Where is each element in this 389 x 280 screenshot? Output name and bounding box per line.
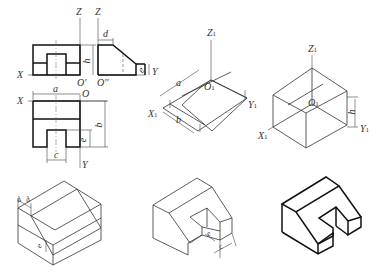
step1-y1-label: Y1: [248, 100, 257, 110]
side-y-axis-label: Y: [152, 67, 158, 77]
side-dim-d: d: [103, 29, 108, 39]
front-view: [28, 18, 96, 80]
top-x-axis-label: X: [17, 96, 23, 106]
step2-dim-h: h: [347, 110, 357, 115]
step1-dim-b: b: [176, 115, 181, 125]
top-dim-e: e: [78, 138, 88, 142]
diagram-canvas: Z X O' h Z d O'' Y e a O X b e c Y Z1 O1…: [0, 0, 389, 280]
isometric-step3: [18, 181, 101, 265]
top-view: [28, 91, 108, 168]
step1-z1-label: Z1: [207, 28, 216, 38]
front-dim-h: h: [82, 59, 92, 64]
step2-y1-label: Y1: [360, 124, 369, 134]
front-z-axis-label: Z: [76, 7, 82, 17]
isometric-final: [282, 177, 361, 254]
step1-dim-a: a: [176, 78, 181, 88]
step1-o1-label: O1: [204, 82, 215, 92]
step2-x1-label: X1: [258, 131, 268, 141]
top-dim-c: c: [54, 150, 58, 160]
top-y-axis-label: Y: [82, 160, 88, 170]
top-dim-b: b: [94, 123, 104, 128]
front-x-axis-label: X: [17, 70, 23, 80]
drawing-layer: [0, 0, 389, 280]
front-outline: [33, 45, 80, 75]
top-origin-label: O: [82, 89, 89, 99]
isometric-step4: [153, 178, 236, 258]
step2-o1-label: O1: [308, 98, 319, 108]
side-z-axis-label: Z: [95, 7, 101, 17]
side-origin-label: O'': [97, 78, 109, 88]
side-view: [98, 18, 149, 75]
front-origin-label: O': [77, 78, 86, 88]
step1-x1-label: X1: [148, 109, 158, 119]
step2-z1-label: Z1: [308, 44, 317, 54]
top-dim-a: a: [53, 84, 58, 94]
